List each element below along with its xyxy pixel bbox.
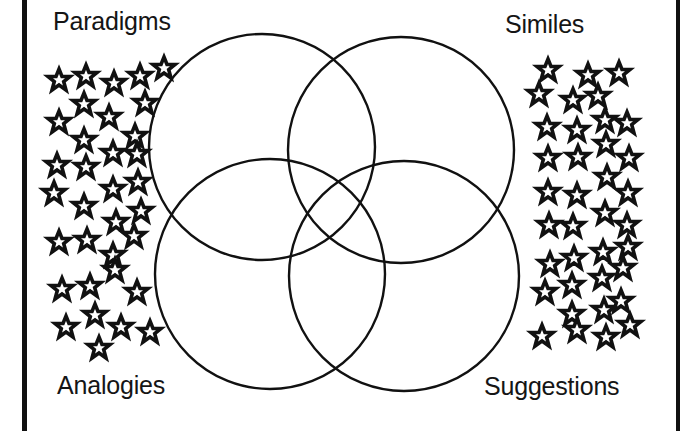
star-icon [577,64,599,85]
star-icon [123,225,145,246]
star-icon [79,275,101,296]
star-icon [537,59,559,80]
star-icon [124,125,146,146]
venn-diagram-canvas: Paradigms Similes Analogies Suggestions [0,0,680,431]
star-icon [566,184,588,205]
star-icon [105,211,127,232]
star-icon [566,119,588,140]
star-icon [537,147,559,168]
star-icon [595,133,617,154]
venn-circles [0,0,680,431]
star-icon [103,72,125,93]
circle-paradigms [149,34,375,260]
star-icon [561,303,583,324]
star-icon [76,229,98,250]
star-icon [51,278,73,299]
star-icon [48,231,70,252]
star-icon [98,106,120,127]
star-icon [618,147,640,168]
star-icon [596,166,618,187]
star-icon [88,337,110,358]
star-icon [563,247,585,268]
star-cluster-left [43,57,175,358]
circle-suggestions [289,161,519,391]
star-icon [610,290,632,311]
star-icon [84,304,106,325]
star-icon [153,57,175,78]
circle-analogies [155,159,385,389]
star-icon [617,236,639,257]
star-icon [591,267,613,288]
star-icon [537,181,559,202]
star-icon [531,325,553,346]
star-icon [592,241,614,262]
star-icon [73,129,95,150]
star-icon [134,92,156,113]
star-icon [55,316,77,337]
star-icon [595,326,617,347]
star-icon [48,69,70,90]
star-icon [528,83,550,104]
star-icon [616,214,638,235]
star-icon [612,257,634,278]
star-icon [73,93,95,114]
star-cluster-right [528,59,641,347]
label-suggestions: Suggestions [484,374,619,399]
label-analogies: Analogies [57,373,165,398]
circle-similes [288,37,514,263]
star-icon [48,111,70,132]
star-icon [536,116,558,137]
star-icon [608,62,630,83]
star-icon [617,182,639,203]
star-icon [110,316,132,337]
star-icon [562,89,584,110]
star-icon [534,281,556,302]
star-icon [594,109,616,130]
star-icon [127,171,149,192]
circles-group [149,34,519,391]
star-icon [129,65,151,86]
star-icon [562,215,584,236]
star-icon [73,195,95,216]
star-icon [538,214,560,235]
star-icon [139,321,161,342]
star-icon [130,200,152,221]
star-icon [593,299,615,320]
star-icon [46,154,68,175]
star-icon [561,274,583,295]
star-icon [75,156,97,177]
star-icon [539,253,561,274]
star-icon [102,142,124,163]
star-icon [43,182,65,203]
star-icon [75,65,97,86]
label-similes: Similes [505,12,584,37]
star-icon [619,314,641,335]
star-icon [102,178,124,199]
star-icon [126,281,148,302]
label-paradigms: Paradigms [53,9,171,34]
star-icon [567,146,589,167]
star-icon [587,85,609,106]
